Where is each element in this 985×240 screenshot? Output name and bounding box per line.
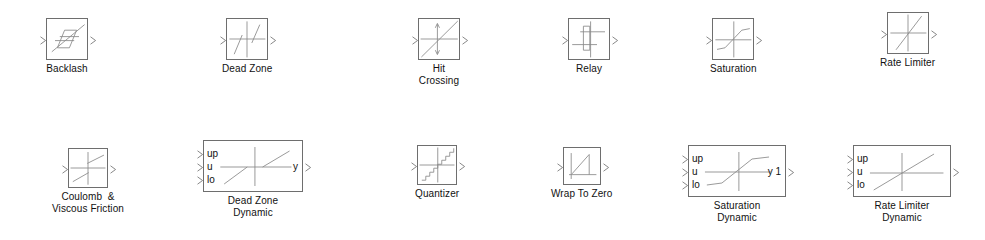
block-backlash[interactable]: Backlash (46, 18, 88, 75)
rate-limiter-ramp-icon (888, 13, 928, 53)
output-port[interactable] (305, 163, 312, 172)
block-body-dead-zone-dynamic[interactable]: upuloy (203, 140, 303, 192)
output-port[interactable] (603, 163, 610, 172)
input-port[interactable] (197, 150, 204, 159)
input-port[interactable] (197, 176, 204, 185)
input-label-up: up (857, 154, 868, 164)
block-rate-limiter[interactable]: Rate Limiter (880, 12, 935, 69)
input-label-up: up (692, 154, 703, 164)
input-label-u: u (857, 167, 863, 177)
block-body-rate-limiter[interactable] (887, 12, 929, 54)
block-dead-zone[interactable]: Dead Zone (222, 18, 272, 75)
output-port[interactable] (459, 162, 466, 171)
block-saturation[interactable]: Saturation (710, 18, 757, 75)
block-body-wrap-to-zero[interactable] (563, 147, 601, 185)
hit-crossing-icon (419, 19, 459, 59)
input-port[interactable] (682, 168, 689, 177)
block-body-quantizer[interactable] (417, 145, 457, 185)
block-body-coulomb-viscous-friction[interactable] (68, 148, 108, 188)
input-label-lo: lo (857, 180, 865, 190)
output-port[interactable] (90, 36, 97, 45)
output-port[interactable] (270, 36, 277, 45)
block-label-saturation-dynamic: Saturation Dynamic (714, 200, 761, 224)
output-port[interactable] (756, 36, 763, 45)
output-port[interactable] (788, 168, 795, 177)
block-label-dead-zone-dynamic: Dead Zone Dynamic (228, 195, 278, 219)
block-body-dead-zone[interactable] (226, 18, 268, 60)
block-saturation-dynamic[interactable]: upuloy 1Saturation Dynamic (688, 145, 786, 224)
input-port[interactable] (40, 36, 47, 45)
block-wrap-to-zero[interactable]: Wrap To Zero (551, 147, 612, 200)
input-port[interactable] (881, 30, 888, 39)
block-label-hit-crossing: Hit Crossing (419, 63, 459, 87)
block-coulomb-viscous-friction[interactable]: Coulomb & Viscous Friction (52, 148, 124, 215)
input-port[interactable] (682, 181, 689, 190)
block-dead-zone-dynamic[interactable]: upuloyDead Zone Dynamic (203, 140, 303, 219)
block-relay[interactable]: Relay (568, 18, 610, 75)
block-body-saturation[interactable] (712, 18, 754, 60)
output-port[interactable] (953, 168, 960, 177)
output-label: y (293, 162, 298, 172)
block-body-backlash[interactable] (46, 18, 88, 60)
block-label-rate-limiter-dynamic: Rate Limiter Dynamic (874, 200, 929, 224)
wrap-to-zero-icon (564, 148, 600, 184)
block-label-rate-limiter: Rate Limiter (880, 57, 935, 69)
block-label-coulomb-viscous-friction: Coulomb & Viscous Friction (52, 191, 124, 215)
block-body-hit-crossing[interactable] (418, 18, 460, 60)
rate-limiter-dynamic-ramp-icon (854, 146, 950, 196)
input-port[interactable] (847, 155, 854, 164)
block-hit-crossing[interactable]: Hit Crossing (418, 18, 460, 87)
input-port[interactable] (412, 36, 419, 45)
block-label-backlash: Backlash (46, 63, 87, 75)
block-label-saturation: Saturation (710, 63, 757, 75)
output-port[interactable] (462, 36, 469, 45)
input-port[interactable] (197, 163, 204, 172)
input-port[interactable] (562, 36, 569, 45)
block-label-relay: Relay (576, 63, 602, 75)
input-label-lo: lo (692, 180, 700, 190)
dead-zone-dynamic-curve-icon (204, 141, 302, 191)
block-label-quantizer: Quantizer (415, 188, 459, 200)
block-quantizer[interactable]: Quantizer (415, 145, 459, 200)
output-label: y 1 (768, 167, 781, 177)
library-canvas: BacklashDead ZoneHit CrossingRelaySatura… (0, 0, 985, 240)
block-rate-limiter-dynamic[interactable]: upuloRate Limiter Dynamic (853, 145, 951, 224)
quantizer-staircase-icon (418, 146, 456, 184)
backlash-hysteresis-icon (47, 19, 87, 59)
block-body-relay[interactable] (568, 18, 610, 60)
block-body-rate-limiter-dynamic[interactable]: upulo (853, 145, 951, 197)
input-port[interactable] (411, 162, 418, 171)
block-body-saturation-dynamic[interactable]: upuloy 1 (688, 145, 786, 197)
block-label-dead-zone: Dead Zone (222, 63, 272, 75)
input-label-lo: lo (207, 175, 215, 185)
output-port[interactable] (110, 165, 117, 174)
saturation-curve-icon (713, 19, 753, 59)
input-port[interactable] (220, 36, 227, 45)
input-port[interactable] (682, 155, 689, 164)
output-port[interactable] (931, 30, 938, 39)
dead-zone-curve-icon (227, 19, 267, 59)
input-label-up: up (207, 149, 218, 159)
relay-hysteresis-icon (569, 19, 609, 59)
coulomb-friction-icon (69, 149, 107, 187)
block-label-wrap-to-zero: Wrap To Zero (551, 188, 612, 200)
input-port[interactable] (557, 163, 564, 172)
input-port[interactable] (847, 181, 854, 190)
input-label-u: u (207, 162, 213, 172)
input-port[interactable] (847, 168, 854, 177)
input-port[interactable] (62, 165, 69, 174)
output-port[interactable] (612, 36, 619, 45)
input-port[interactable] (706, 36, 713, 45)
input-label-u: u (692, 167, 698, 177)
